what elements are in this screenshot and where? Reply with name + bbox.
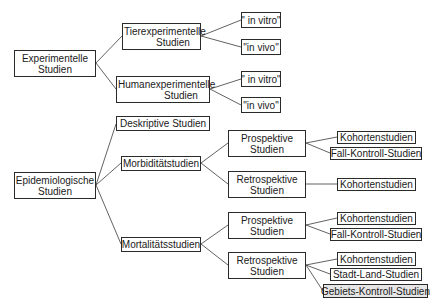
node-deskriptive-studien: Deskriptive Studien — [116, 116, 210, 131]
node-label: Kohortenstudien — [340, 132, 413, 143]
node-label: Epidemiologische — [16, 175, 94, 186]
node-epidemiologische-studien: Epidemiologische Studien — [14, 172, 96, 199]
node-human-in-vivo: "in vivo" — [241, 97, 281, 113]
node-label: Gebiets-Kontroll-Studien — [321, 286, 430, 297]
node-mort-prospektive-studien: Prospektive Studien — [228, 212, 306, 239]
node-mort-retro-kohortenstudien: Kohortenstudien — [337, 252, 416, 266]
node-label: Studien — [118, 90, 198, 101]
node-mort-retrospektive-studien: Retrospektive Studien — [228, 252, 306, 279]
node-label: Experimentelle — [22, 53, 88, 64]
node-morb-retro-kohortenstudien: Kohortenstudien — [337, 178, 416, 191]
node-label: Studien — [250, 266, 284, 277]
node-mort-retro-stadt-land-studien: Stadt-Land-Studien — [330, 268, 422, 281]
node-morb-prosp-kohortenstudien: Kohortenstudien — [337, 131, 416, 144]
node-label: " in vitro" — [241, 15, 280, 26]
node-morbiditaetstudien: Morbiditätstudien — [121, 156, 201, 171]
node-label: Retrospektive — [236, 255, 297, 266]
node-label: Kohortenstudien — [340, 254, 413, 265]
node-mort-prosp-kohortenstudien: Kohortenstudien — [337, 212, 416, 225]
node-label: Stadt-Land-Studien — [333, 269, 419, 280]
node-label: Studien — [250, 185, 284, 196]
node-tier-in-vivo: "in vivo" — [241, 39, 281, 55]
node-mort-prosp-fall-kontroll-studien: Fall-Kontroll-Studien — [330, 228, 422, 241]
node-mort-retro-gebiets-kontroll-studien: Gebiets-Kontroll-Studien — [323, 284, 428, 298]
node-label: Deskriptive Studien — [120, 118, 206, 129]
node-label: Humanexperimentelle — [118, 79, 215, 90]
node-humanexperimentelle-studien: Humanexperimentelle Studien — [116, 76, 210, 103]
node-morb-prosp-fall-kontroll-studien: Fall-Kontroll-Studien — [330, 147, 422, 160]
node-experimentelle-studien: Experimentelle Studien — [14, 50, 96, 77]
node-label: Prospektive — [241, 133, 293, 144]
node-mortalitaetsstudien: Mortalitätsstudien — [121, 237, 201, 252]
node-label: Tierexperimentelle — [124, 26, 206, 37]
node-label: Kohortenstudien — [340, 179, 413, 190]
node-label: Prospektive — [241, 215, 293, 226]
node-label: " in vitro" — [241, 74, 280, 85]
node-tierexperimentelle-studien: Tierexperimentelle Studien — [122, 23, 201, 50]
node-morb-retrospektive-studien: Retrospektive Studien — [228, 171, 306, 198]
node-label: Mortalitätsstudien — [122, 239, 200, 250]
node-label: Fall-Kontroll-Studien — [331, 148, 422, 159]
node-label: Studien — [38, 64, 72, 75]
node-label: Morbiditätstudien — [123, 158, 199, 169]
node-label: Studien — [38, 186, 72, 197]
node-label: Studien — [250, 144, 284, 155]
node-human-in-vitro: " in vitro" — [241, 71, 281, 87]
node-tier-in-vitro: " in vitro" — [241, 12, 281, 28]
node-label: Kohortenstudien — [340, 213, 413, 224]
node-label: Studien — [250, 226, 284, 237]
node-label: Fall-Kontroll-Studien — [331, 229, 422, 240]
node-label: "in vivo" — [243, 100, 278, 111]
node-label: Studien — [124, 37, 190, 48]
node-morb-prospektive-studien: Prospektive Studien — [228, 130, 306, 157]
node-label: Retrospektive — [236, 174, 297, 185]
node-label: "in vivo" — [243, 42, 278, 53]
